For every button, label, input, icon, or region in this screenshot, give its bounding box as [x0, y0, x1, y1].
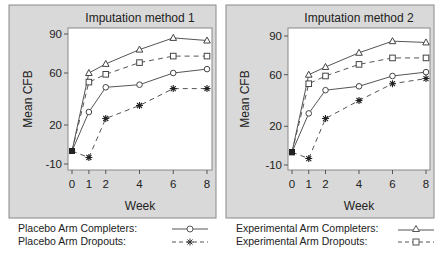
- x-tick-label: 6: [170, 178, 176, 190]
- circle-marker: [103, 85, 109, 91]
- circle-marker: [323, 87, 329, 93]
- x-tick-label: 8: [204, 178, 210, 190]
- square-marker: [204, 53, 210, 59]
- circle-marker: [306, 111, 312, 117]
- marker-week0: [289, 149, 295, 155]
- circle-marker: [423, 69, 429, 75]
- y-tick-label: 90: [269, 30, 282, 42]
- square-marker: [86, 79, 92, 85]
- x-tick-label: 2: [103, 178, 109, 190]
- square-marker: [390, 55, 396, 61]
- marker-week0: [69, 148, 75, 154]
- square-marker: [423, 55, 429, 61]
- circle-marker: [86, 109, 92, 115]
- star-marker: [136, 102, 143, 109]
- legend-label: Experimental Arm Completers:: [236, 222, 378, 234]
- x-axis-label: Week: [344, 199, 375, 213]
- y-tick-label: 60: [49, 67, 62, 79]
- x-tick-label: 4: [136, 178, 143, 190]
- legend-label: Experimental Arm Dropouts:: [236, 235, 367, 247]
- circle-marker: [170, 70, 176, 76]
- legend-star-dashed-icon: [170, 235, 210, 248]
- y-tick-label: 20: [269, 120, 282, 132]
- chart-panel-1: Imputation method 1-10206090Mean CFB0124…: [9, 5, 216, 218]
- star-marker: [356, 97, 363, 104]
- chart-title: Imputation method 1: [85, 11, 195, 25]
- y-tick-label: 60: [269, 69, 282, 81]
- chart-panel-2: Imputation method 2-10206090Mean CFB0124…: [226, 5, 434, 218]
- legend-item: Placebo Arm Dropouts:: [18, 235, 218, 248]
- x-tick-label: 1: [86, 178, 92, 190]
- x-tick-label: 4: [356, 178, 363, 190]
- square-marker: [306, 81, 312, 87]
- legend-right: Experimental Arm Completers: Experimenta…: [236, 222, 436, 248]
- circle-marker: [390, 73, 396, 79]
- legend-left: Placebo Arm Completers: Placebo Arm Drop…: [18, 222, 218, 248]
- y-tick-label: -10: [265, 159, 282, 171]
- y-axis-label: Mean CFB: [238, 70, 252, 127]
- circle-marker: [204, 66, 210, 72]
- legend-label: Placebo Arm Completers:: [18, 222, 137, 234]
- star-marker: [204, 85, 211, 92]
- x-tick-label: 8: [423, 178, 429, 190]
- star-marker: [423, 75, 430, 82]
- x-tick-label: 2: [322, 178, 328, 190]
- star-marker: [305, 155, 312, 162]
- legend-item: Experimental Arm Dropouts:: [236, 235, 436, 248]
- legend-item: Placebo Arm Completers:: [18, 222, 218, 235]
- x-tick-label: 6: [389, 178, 395, 190]
- legend-square-dashed-icon: [396, 235, 436, 248]
- circle-marker: [137, 82, 143, 88]
- y-tick-label: 20: [49, 119, 62, 131]
- square-marker: [323, 73, 329, 79]
- star-marker: [170, 85, 177, 92]
- x-tick-label: 0: [69, 178, 75, 190]
- legend-circle-solid-icon: [170, 222, 210, 235]
- legend-item: Experimental Arm Completers:: [236, 222, 436, 235]
- circle-marker: [356, 84, 362, 90]
- square-marker: [137, 60, 143, 66]
- x-tick-label: 0: [289, 178, 295, 190]
- legend-label: Placebo Arm Dropouts:: [18, 235, 126, 247]
- star-marker: [322, 115, 329, 122]
- y-axis-label: Mean CFB: [21, 70, 35, 127]
- y-tick-label: -10: [45, 158, 62, 170]
- x-axis-label: Week: [125, 199, 156, 213]
- x-tick-label: 1: [306, 178, 312, 190]
- star-marker: [389, 80, 396, 87]
- star-marker: [85, 154, 92, 161]
- y-tick-label: 90: [49, 28, 62, 40]
- chart-title: Imputation method 2: [304, 11, 414, 25]
- square-marker: [170, 53, 176, 59]
- legend-triangle-solid-icon: [396, 222, 436, 235]
- chart-figure: Imputation method 1-10206090Mean CFB0124…: [0, 0, 439, 254]
- star-marker: [102, 115, 109, 122]
- square-marker: [103, 72, 109, 78]
- square-marker: [356, 62, 362, 68]
